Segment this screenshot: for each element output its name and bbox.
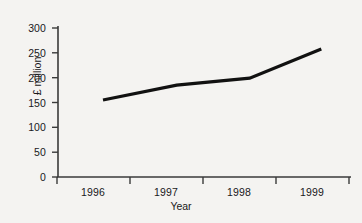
y-tick-label-50: 50 [16,146,46,158]
y-tick-label-100: 100 [16,121,46,133]
data-series-line [103,49,321,100]
y-axis-ticks [52,28,58,177]
x-axis-ticks [57,177,349,184]
y-axis-title: £ million [31,41,43,111]
line-chart: 300 250 200 150 100 50 0 1996 1997 1998 … [0,0,362,223]
y-tick-label-0: 0 [16,171,46,183]
y-tick-label-300: 300 [16,22,46,34]
x-tick-label-1998: 1998 [209,186,269,198]
x-tick-label-1997: 1997 [136,186,196,198]
x-tick-label-1996: 1996 [63,186,123,198]
x-tick-label-1999: 1999 [282,186,342,198]
x-axis-title: Year [0,200,362,212]
